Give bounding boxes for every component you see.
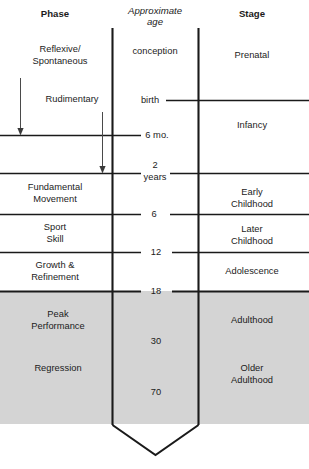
channel-arrowhead <box>113 425 199 455</box>
phase-fundamental-movement-line1: Fundamental <box>28 182 83 194</box>
phase-regression: Regression <box>34 363 81 375</box>
column-header-phase: Phase <box>41 8 69 20</box>
stage-infancy: Infancy <box>237 120 267 132</box>
age-thirty-years: 30 <box>151 336 161 348</box>
stage-early-childhood-line2: Childhood <box>231 199 273 211</box>
stage-older-adulthood-line1: Older <box>241 363 264 375</box>
phase-sport-skill-line2: Skill <box>46 234 63 246</box>
arrow-reflexive-to-rudimentary <box>17 78 23 136</box>
phase-growth-refinement-line1: Growth & <box>36 260 75 272</box>
age-two-years-line2: years <box>144 172 167 184</box>
phase-sport-skill-line1: Sport <box>44 222 66 234</box>
stage-adolescence: Adolescence <box>225 266 278 278</box>
column-header-age-line1: Approximate <box>128 5 182 17</box>
age-six-months: 6 mo. <box>145 130 168 142</box>
stage-later-childhood-line1: Later <box>241 224 262 236</box>
phase-fundamental-movement-line2: Movement <box>33 194 77 206</box>
age-six-years: 6 <box>151 209 156 221</box>
stage-later-childhood-line2: Childhood <box>231 236 273 248</box>
phase-peak-performance-line2: Performance <box>31 321 84 333</box>
stage-older-adulthood-line2: Adulthood <box>231 375 273 387</box>
stage-early-childhood-line1: Early <box>241 187 262 199</box>
stage-prenatal: Prenatal <box>235 50 270 62</box>
phase-peak-performance-line1: Peak <box>47 309 68 321</box>
age-twelve-years: 12 <box>151 247 161 259</box>
age-conception: conception <box>132 46 177 58</box>
phase-reflexive-spontaneous-line2: Spontaneous <box>32 56 87 68</box>
column-header-age-line2: age <box>147 16 163 28</box>
age-eighteen-years: 18 <box>151 286 161 298</box>
phase-reflexive-spontaneous-line1: Reflexive/ <box>39 44 80 56</box>
shaded-adulthood-band <box>0 291 309 424</box>
motor-development-diagram: Phase Approximate age Stage Reflexive/ S… <box>0 0 309 469</box>
arrow-rudimentary-to-fundamental <box>99 112 105 174</box>
phase-rudimentary: Rudimentary <box>46 94 99 106</box>
age-birth: birth <box>141 95 159 107</box>
phase-growth-refinement-line2: Refinement <box>31 272 79 284</box>
age-seventy-years: 70 <box>151 387 161 399</box>
column-header-stage: Stage <box>239 8 265 20</box>
age-two-years-line1: 2 <box>152 160 157 172</box>
stage-adulthood: Adulthood <box>231 315 273 327</box>
